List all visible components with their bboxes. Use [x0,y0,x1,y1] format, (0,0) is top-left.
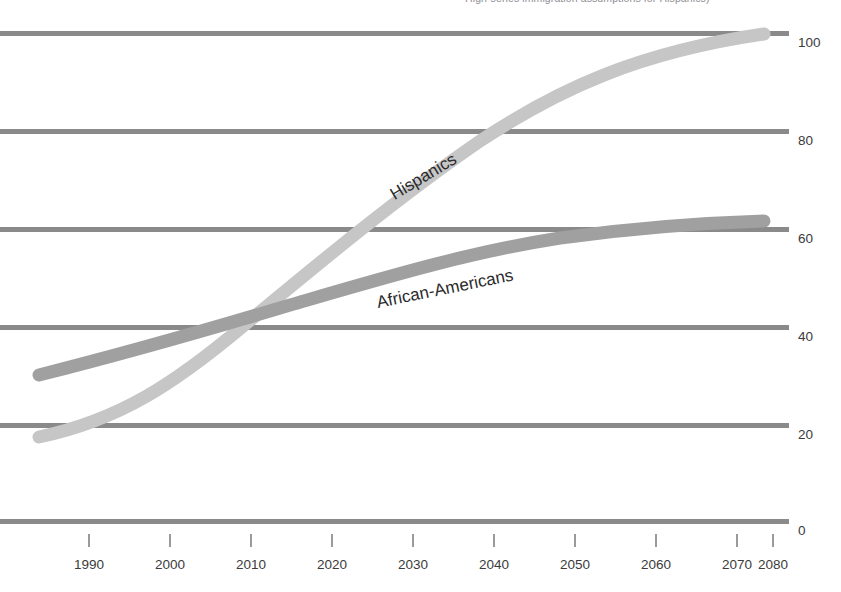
x-axis-label-2060: 2060 [616,558,696,572]
x-axis-label-2050: 2050 [535,558,615,572]
chart-container: High-series immigration assumptions for … [0,0,841,592]
line-hispanics [39,34,764,437]
x-axis-label-1990: 1990 [49,558,129,572]
x-tick-2020 [331,534,333,547]
x-tick-2050 [574,534,576,547]
x-tick-2030 [412,534,414,547]
x-axis-label-2040: 2040 [454,558,534,572]
x-tick-2080 [772,534,774,547]
x-axis-label-2010: 2010 [211,558,291,572]
x-axis-label-2000: 2000 [130,558,210,572]
x-tick-1990 [88,534,90,547]
x-tick-2040 [493,534,495,547]
x-axis-label-2020: 2020 [292,558,372,572]
x-tick-2000 [169,534,171,547]
x-axis-label-2030: 2030 [373,558,453,572]
x-tick-2010 [250,534,252,547]
x-tick-2070 [736,534,738,547]
plot-area: 100 80 60 40 20 0 Hispanics African-Amer… [0,0,841,592]
x-axis-label-2080: 2080 [733,558,813,572]
x-tick-2060 [655,534,657,547]
